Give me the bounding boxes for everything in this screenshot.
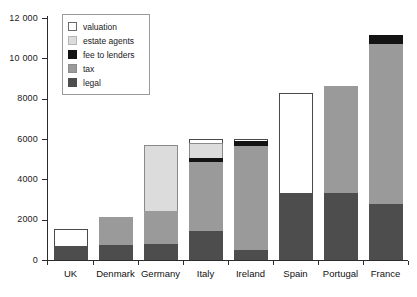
x-axis-label-denmark: Denmark: [93, 268, 138, 279]
bar-segment-legal: [324, 193, 358, 260]
bar-segment-tax: [369, 44, 403, 203]
legend-item-fee-to-lenders[interactable]: fee to lenders: [68, 48, 143, 61]
y-axis-tick-label: 10 000: [9, 54, 38, 63]
legend-item-tax[interactable]: tax: [68, 62, 143, 75]
legend-item-label: estate agents: [83, 36, 134, 46]
legend-item-estate-agents[interactable]: estate agents: [68, 34, 143, 47]
x-axis-tick: [273, 261, 274, 265]
x-axis-label-italy: Italy: [183, 268, 228, 279]
legend-swatch-icon: [68, 78, 77, 87]
bar-ireland[interactable]: [234, 139, 268, 260]
bar-segment-legal: [54, 246, 88, 260]
x-axis-label-portugal: Portugal: [318, 268, 363, 279]
x-axis-tick: [363, 261, 364, 265]
x-axis-label-spain: Spain: [273, 268, 318, 279]
bar-segment-fee-to-lenders: [369, 35, 403, 45]
legend-item-label: fee to lenders: [83, 50, 135, 60]
bar-italy[interactable]: [189, 139, 223, 260]
legend-item-legal[interactable]: legal: [68, 76, 143, 89]
bar-uk[interactable]: [54, 229, 88, 260]
y-axis-tick-label: 2000: [17, 215, 38, 224]
bar-segment-legal: [144, 244, 178, 260]
y-axis-tick-label: 4000: [17, 175, 38, 184]
legend-swatch-icon: [68, 64, 77, 73]
bar-denmark[interactable]: [99, 217, 133, 260]
x-axis-tick: [408, 261, 409, 265]
legend-item-label: tax: [83, 64, 94, 74]
legend-swatch-icon: [68, 50, 77, 59]
bar-germany[interactable]: [144, 145, 178, 260]
y-axis-tick-label: 12 000: [9, 14, 38, 23]
bar-segment-valuation: [279, 93, 313, 193]
x-axis-tick: [138, 261, 139, 265]
bar-segment-estate-agents: [189, 143, 223, 157]
legend-swatch-icon: [68, 22, 77, 31]
bar-portugal[interactable]: [324, 86, 358, 260]
chart-legend: valuationestate agentsfee to lenderstaxl…: [62, 14, 150, 95]
bar-segment-legal: [99, 245, 133, 260]
x-axis-label-uk: UK: [48, 268, 93, 279]
y-axis-tick-label: 0: [33, 256, 38, 265]
bar-segment-tax: [189, 162, 223, 231]
bar-segment-legal: [279, 193, 313, 260]
x-axis-label-germany: Germany: [138, 268, 183, 279]
legend-item-valuation[interactable]: valuation: [68, 20, 143, 33]
bar-france[interactable]: [369, 35, 403, 260]
y-axis-tick-label: 6000: [17, 135, 38, 144]
bar-segment-valuation: [54, 229, 88, 246]
bar-segment-tax: [234, 146, 268, 250]
y-axis-tick-label: 8000: [17, 94, 38, 103]
legend-item-label: valuation: [83, 22, 117, 32]
bar-segment-legal: [189, 231, 223, 260]
legend-item-label: legal: [83, 78, 101, 88]
bar-segment-tax: [99, 217, 133, 245]
x-axis-tick: [47, 261, 48, 265]
bar-segment-estate-agents: [144, 145, 178, 211]
x-axis-tick: [318, 261, 319, 265]
bar-segment-tax: [324, 86, 358, 193]
legend-swatch-icon: [68, 36, 77, 45]
bar-spain[interactable]: [279, 93, 313, 260]
bar-segment-legal: [234, 250, 268, 260]
x-axis-tick: [93, 261, 94, 265]
bar-segment-tax: [144, 211, 178, 244]
x-axis-tick: [183, 261, 184, 265]
x-axis-tick: [228, 261, 229, 265]
bar-segment-legal: [369, 204, 403, 260]
x-axis-label-ireland: Ireland: [228, 268, 273, 279]
x-axis-label-france: France: [363, 268, 408, 279]
stacked-bar-chart: 0200040006000800010 00012 000 UKDenmarkG…: [0, 0, 417, 297]
